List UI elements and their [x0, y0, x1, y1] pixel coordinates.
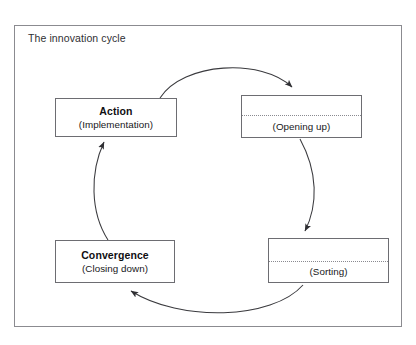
- node-sorting[interactable]: (Sorting): [268, 238, 389, 283]
- node-sorting-caption: (Sorting): [269, 262, 388, 282]
- node-sorting-subtitle: (Sorting): [309, 265, 347, 278]
- node-action[interactable]: Action (Implementation): [55, 98, 177, 137]
- node-opening-up-answer-blank[interactable]: [242, 96, 361, 115]
- diagram-canvas: The innovation cycle Action (Implementat…: [0, 0, 416, 345]
- node-opening-up[interactable]: (Opening up): [241, 95, 362, 138]
- node-opening-up-subtitle: (Opening up): [273, 120, 331, 133]
- diagram-title: The innovation cycle: [28, 32, 126, 44]
- node-action-subtitle: (Implementation): [79, 118, 153, 131]
- node-action-title: Action: [99, 104, 132, 118]
- node-convergence-subtitle: (Closing down): [82, 262, 148, 275]
- node-convergence[interactable]: Convergence (Closing down): [55, 240, 175, 283]
- cropped-text-row: [0, 0, 416, 10]
- node-convergence-title: Convergence: [81, 248, 149, 262]
- node-sorting-answer-blank[interactable]: [269, 239, 388, 261]
- node-opening-up-caption: (Opening up): [242, 116, 361, 137]
